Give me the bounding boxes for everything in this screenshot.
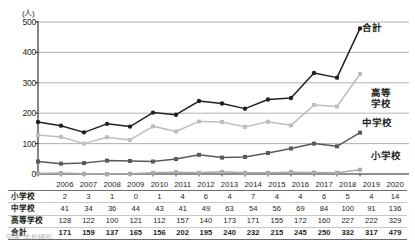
table-row: 中学校41343644434149635456698410091136: [8, 203, 407, 215]
table-cell: 56: [265, 203, 289, 215]
data-point-marker: [36, 171, 40, 175]
data-point-marker: [220, 120, 224, 124]
table-col-header: 2009: [124, 179, 148, 191]
table-cell: 3: [77, 191, 101, 203]
data-point-marker: [289, 123, 293, 127]
data-point-marker: [358, 168, 362, 172]
table-cell: 63: [218, 203, 242, 215]
data-point-marker: [289, 96, 293, 100]
data-point-marker: [335, 144, 339, 148]
table-cell: 136: [383, 203, 407, 215]
series-line: [38, 74, 360, 144]
table-cell: 4: [265, 191, 289, 203]
table-cell: 250: [312, 227, 336, 239]
table-col-header: 2006: [53, 179, 77, 191]
table-cell: 122: [77, 215, 101, 227]
data-point-marker: [59, 123, 63, 127]
table-row-label: 高等学校: [8, 215, 53, 227]
table-cell: 69: [289, 203, 313, 215]
line-chart: (人) 500 400 300 200 100 0 合計 高等 学校 中学校 小…: [0, 0, 415, 178]
table-col-header: 2011: [171, 179, 194, 191]
table-cell: 4: [289, 191, 313, 203]
data-point-marker: [82, 172, 86, 176]
data-point-marker: [358, 72, 362, 76]
data-point-marker: [266, 151, 270, 155]
data-point-marker: [220, 156, 224, 160]
data-point-marker: [105, 172, 109, 176]
data-point-marker: [36, 120, 40, 124]
table-col-header: 2010: [148, 179, 172, 191]
data-point-marker: [243, 125, 247, 129]
table-col-header: 2013: [218, 179, 242, 191]
table-cell: 54: [241, 203, 265, 215]
data-point-marker: [128, 124, 132, 128]
table-cell: 479: [383, 227, 407, 239]
data-point-marker: [174, 129, 178, 133]
table-cell: 84: [312, 203, 336, 215]
table-cell: 34: [77, 203, 101, 215]
gridlines: [38, 22, 409, 174]
data-point-marker: [174, 170, 178, 174]
table-cell: 14: [383, 191, 407, 203]
table-col-header: 2018: [336, 179, 360, 191]
data-point-marker: [243, 155, 247, 159]
data-point-marker: [220, 101, 224, 105]
data-table-region: 2006200720082009201020112012201320142015…: [8, 179, 407, 240]
series-label-high-school: 高等 学校: [371, 88, 391, 109]
table-cell: 245: [289, 227, 313, 239]
data-point-marker: [151, 160, 155, 164]
data-point-marker: [36, 133, 40, 137]
table-cell: 41: [53, 203, 77, 215]
data-point-marker: [335, 171, 339, 175]
data-point-marker: [151, 124, 155, 128]
table-cell: 329: [383, 215, 407, 227]
table-cell: 0: [124, 191, 148, 203]
table-cell: 332: [336, 227, 360, 239]
table-row-label: 小学校: [8, 191, 53, 203]
series-label-elementary: 小学校: [371, 151, 400, 162]
table-header: 2006200720082009201020112012201320142015…: [8, 179, 407, 191]
series-markers: [36, 26, 362, 176]
series-label-high-school-line1: 高等: [371, 88, 391, 99]
series-label-junior-high: 中学校: [362, 118, 391, 129]
data-point-marker: [266, 171, 270, 175]
table-col-header: 2020: [383, 179, 407, 191]
data-point-marker: [335, 75, 339, 79]
data-point-marker: [128, 172, 132, 176]
data-point-marker: [358, 131, 362, 135]
table-cell: 36: [100, 203, 124, 215]
table-cell: 317: [360, 227, 384, 239]
series-line: [38, 28, 360, 132]
table-cell: 4: [171, 191, 194, 203]
table-col-header: 2007: [77, 179, 101, 191]
table-cell: 44: [124, 203, 148, 215]
data-point-marker: [312, 170, 316, 174]
table-cell: 7: [241, 191, 265, 203]
table-cell: 227: [336, 215, 360, 227]
table-cell: 232: [241, 227, 265, 239]
table-cell: 91: [360, 203, 384, 215]
data-point-marker: [220, 170, 224, 174]
data-point-marker: [105, 135, 109, 139]
data-point-marker: [266, 97, 270, 101]
table-cell: 140: [194, 215, 218, 227]
data-point-marker: [128, 138, 132, 142]
table-col-header: 2017: [312, 179, 336, 191]
table-cell: 4: [360, 191, 384, 203]
data-point-marker: [151, 110, 155, 114]
table-cell: 100: [336, 203, 360, 215]
data-point-marker: [197, 171, 201, 175]
table-col-header: 2012: [194, 179, 218, 191]
data-point-marker: [174, 113, 178, 117]
data-point-marker: [82, 130, 86, 134]
table-row: 小学校2310146474465414: [8, 191, 407, 203]
table-cell: 155: [265, 215, 289, 227]
table-cell: 173: [218, 215, 242, 227]
table-cell: 160: [312, 215, 336, 227]
table-cell: 128: [53, 215, 77, 227]
data-point-marker: [289, 146, 293, 150]
table-cell: 4: [218, 191, 242, 203]
table-col-header: 2008: [100, 179, 124, 191]
table-cell: 43: [148, 203, 172, 215]
data-point-marker: [82, 142, 86, 146]
